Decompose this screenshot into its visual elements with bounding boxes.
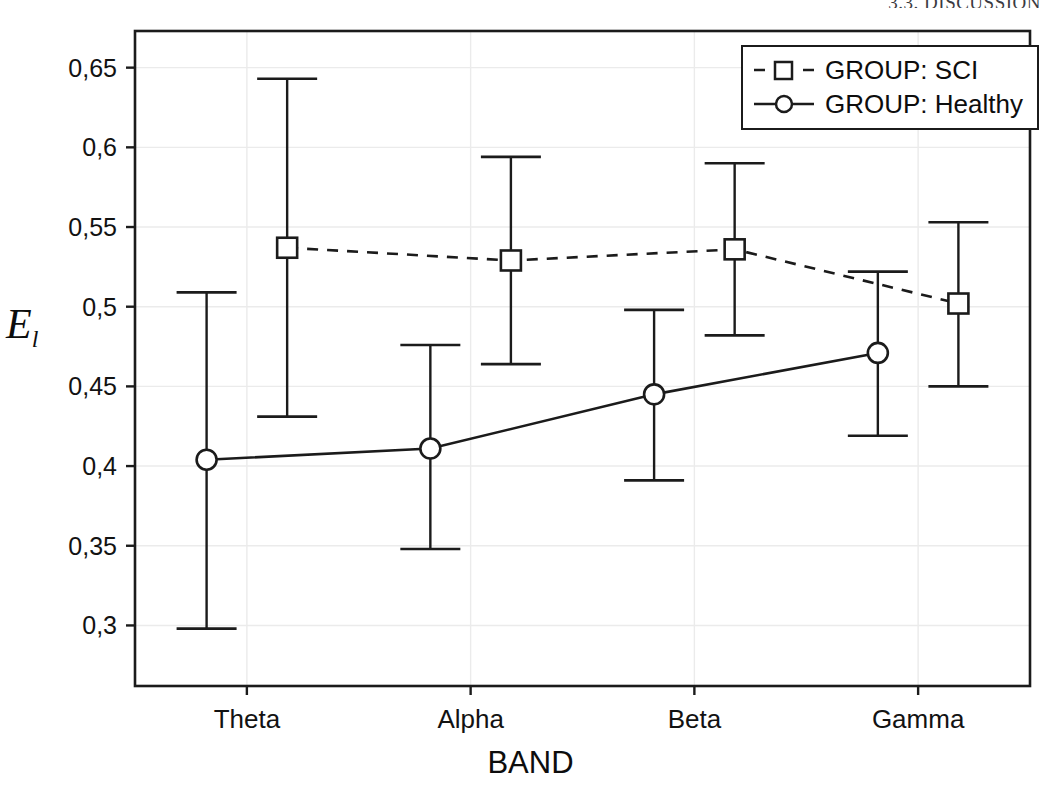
y-tick-label: 0,55 (0, 213, 117, 242)
square-marker-icon (753, 59, 815, 81)
legend-item-healthy[interactable]: GROUP: Healthy (753, 87, 1023, 121)
y-tick-label: 0,65 (0, 53, 117, 82)
legend-item-sci[interactable]: GROUP: SCI (753, 53, 1023, 87)
x-tick-label: Theta (214, 704, 281, 735)
y-tick-label: 0,4 (0, 452, 117, 481)
circle-marker-icon (197, 450, 217, 470)
square-marker-icon (277, 238, 297, 258)
chart-legend: GROUP: SCI GROUP: Healthy (741, 45, 1039, 130)
series-line (287, 248, 958, 304)
x-tick-label: Gamma (872, 704, 964, 735)
y-tick-label: 0,6 (0, 133, 117, 162)
axis-ticks (126, 68, 918, 695)
legend-label-sci: GROUP: SCI (825, 57, 978, 83)
error-bar-chart: 0,30,350,40,450,50,550,60,65 ThetaAlphaB… (0, 0, 1061, 802)
circle-marker-icon (420, 439, 440, 459)
y-axis-title: El (6, 300, 38, 353)
square-marker-icon (725, 239, 745, 259)
circle-marker-icon (868, 343, 888, 363)
x-tick-label: Beta (668, 704, 722, 735)
y-tick-label: 0,45 (0, 372, 117, 401)
legend-label-healthy: GROUP: Healthy (825, 91, 1023, 117)
x-axis-title: BAND (0, 745, 1061, 781)
circle-marker-icon (644, 384, 664, 404)
x-tick-label: Alpha (437, 704, 504, 735)
circle-marker-icon (753, 93, 815, 115)
square-marker-icon (501, 250, 521, 270)
y-axis-title-base: E (6, 301, 32, 347)
y-tick-label: 0,35 (0, 531, 117, 560)
y-tick-label: 0,3 (0, 611, 117, 640)
square-marker-icon (948, 294, 968, 314)
series-line (207, 353, 878, 460)
y-axis-title-subscript: l (32, 326, 39, 352)
